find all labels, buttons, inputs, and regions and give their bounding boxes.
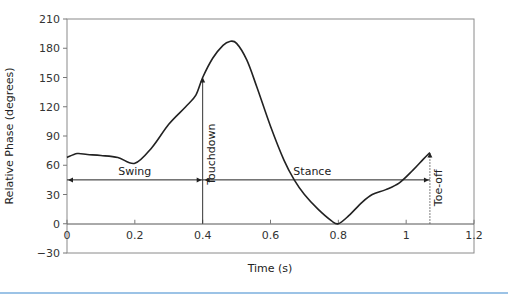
stance-label: Stance [293,165,331,178]
toeoff-label: Toe-off [432,169,445,207]
x-tick-label: 0.8 [330,229,348,242]
x-axis-ticks: 00.20.40.60.811.2 [64,220,483,242]
plot-frame [67,19,474,253]
y-tick-label: 0 [53,218,60,231]
y-axis-title: Relative Phase (degrees) [3,67,16,204]
x-tick-label: 0 [64,229,71,242]
y-tick-label: 180 [39,42,60,55]
touchdown-label: Touchdown [205,123,218,185]
y-tick-label: 210 [39,13,60,26]
y-tick-label: 90 [46,130,60,143]
arrowhead-icon [197,177,202,182]
relative-phase-curve [67,41,430,224]
x-tick-label: 1 [403,229,410,242]
y-axis-ticks: −300306090120150180210 [37,13,67,260]
y-tick-label: −30 [37,247,60,260]
y-tick-label: 120 [39,101,60,114]
y-tick-label: 150 [39,72,60,85]
relative-phase-chart: −300306090120150180210 00.20.40.60.811.2… [0,0,508,297]
x-tick-label: 0.2 [126,229,144,242]
y-tick-label: 30 [46,189,60,202]
x-tick-label: 0.4 [194,229,212,242]
x-tick-label: 0.6 [262,229,280,242]
arrowhead-icon [424,177,429,182]
swing-label: Swing [118,165,151,178]
bottom-divider [0,292,508,294]
phase-annotations: SwingTouchdownStanceToe-off [67,78,445,224]
x-axis-title: Time (s) [247,262,293,275]
arrowhead-icon [68,177,73,182]
y-tick-label: 60 [46,159,60,172]
x-tick-label: 1.2 [465,229,483,242]
